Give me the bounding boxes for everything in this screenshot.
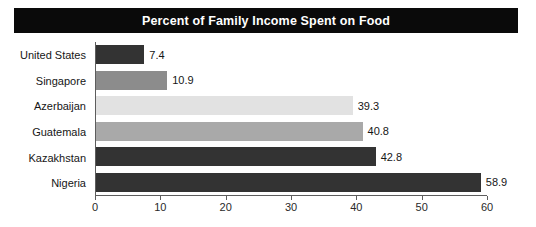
x-tick-label: 60 (481, 201, 493, 213)
bar-value-guatemala: 40.8 (363, 125, 389, 137)
x-tick-label: 30 (285, 201, 297, 213)
bar-row: 40.8 (96, 119, 487, 145)
bar-value-kazakhstan: 42.8 (376, 151, 402, 163)
bar-azerbaijan (96, 96, 353, 115)
bar-row: 7.4 (96, 42, 487, 68)
x-tick-label: 10 (154, 201, 166, 213)
category-label-singapore: Singapore (0, 68, 92, 94)
bar-row: 42.8 (96, 144, 487, 170)
plot-area: 7.4 10.9 39.3 40.8 42.8 (95, 42, 487, 196)
x-tick-mark (356, 196, 357, 200)
x-axis: 0102030405060 (95, 196, 487, 226)
x-tick-mark (291, 196, 292, 200)
bar-nigeria (96, 173, 481, 192)
x-tick-label: 20 (220, 201, 232, 213)
chart-title-banner: Percent of Family Income Spent on Food (14, 8, 518, 33)
bar-row: 58.9 (96, 170, 487, 196)
bar-row: 10.9 (96, 68, 487, 94)
x-tick-mark (160, 196, 161, 200)
category-label-guatemala: Guatemala (0, 119, 92, 145)
bar-guatemala (96, 122, 363, 141)
x-tick-label: 40 (350, 201, 362, 213)
bar-united-states (96, 45, 144, 64)
bar-row: 39.3 (96, 93, 487, 119)
x-tick-mark (422, 196, 423, 200)
chart-title: Percent of Family Income Spent on Food (142, 14, 390, 28)
bar-value-azerbaijan: 39.3 (353, 100, 379, 112)
category-label-azerbaijan: Azerbaijan (0, 93, 92, 119)
x-tick-label: 50 (416, 201, 428, 213)
category-label-united-states: United States (0, 42, 92, 68)
category-label-kazakhstan: Kazakhstan (0, 145, 92, 171)
x-tick-mark (226, 196, 227, 200)
bar-series: 7.4 10.9 39.3 40.8 42.8 (96, 42, 487, 195)
bar-kazakhstan (96, 147, 376, 166)
bar-value-singapore: 10.9 (167, 74, 193, 86)
x-tick-mark (95, 196, 96, 200)
chart-figure: Percent of Family Income Spent on Food U… (0, 0, 536, 227)
x-tick-mark (487, 196, 488, 200)
chart-plot-region: United States Singapore Azerbaijan Guate… (0, 42, 536, 227)
category-axis-labels: United States Singapore Azerbaijan Guate… (0, 42, 92, 196)
bar-value-united-states: 7.4 (144, 49, 164, 61)
bar-value-nigeria: 58.9 (481, 176, 507, 188)
x-tick-label: 0 (92, 201, 98, 213)
category-label-nigeria: Nigeria (0, 170, 92, 196)
bar-singapore (96, 71, 167, 90)
